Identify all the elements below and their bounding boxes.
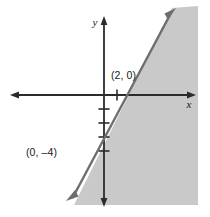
x-axis-label: x <box>186 98 192 110</box>
linear-inequality-graph: y x (2, 0) (0, –4) <box>0 0 210 217</box>
graph-canvas: y x (2, 0) (0, –4) <box>0 0 210 217</box>
label-y-intercept: (0, –4) <box>26 146 57 158</box>
y-axis-label: y <box>92 16 98 28</box>
label-x-intercept: (2, 0) <box>111 69 136 81</box>
shaded-region <box>74 6 198 205</box>
